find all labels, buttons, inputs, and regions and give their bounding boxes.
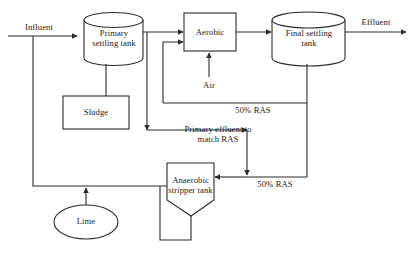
label-sludge: Sludge xyxy=(63,107,129,117)
final-tank-top-ellipse xyxy=(272,12,345,28)
label-effluent: Effluent xyxy=(352,17,400,27)
final-tank-bottom-arc xyxy=(272,58,345,66)
diagram-canvas: Influent Primary settling tank Sludge Ae… xyxy=(0,0,414,256)
label-ras-lower: 50% RAS xyxy=(250,179,300,189)
label-ras-upper: 50% RAS xyxy=(228,105,278,115)
label-lime: Lime xyxy=(62,216,110,226)
flow-recycle-to-aerobic xyxy=(163,42,183,103)
label-primary-effluent-to-match-ras: Primary effluent to match RAS xyxy=(168,124,268,144)
primary-tank-bottom-arc xyxy=(84,58,143,65)
label-primary-settling-tank: Primary settling tank xyxy=(84,28,144,48)
label-air: Air xyxy=(194,80,224,90)
label-final-settling-tank: Final settling tank xyxy=(274,28,344,48)
primary-tank-top-ellipse xyxy=(84,13,143,28)
label-anaerobic-stripper-tank: Anaerobic stripper tank xyxy=(167,175,214,195)
label-aerobic: Aerobic xyxy=(184,27,236,37)
label-influent: Influent xyxy=(12,22,66,32)
